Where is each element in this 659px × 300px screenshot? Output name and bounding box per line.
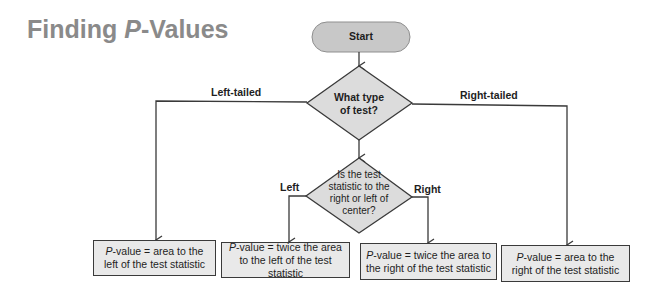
result-text-body: -value = twice the area to the left of t… [236, 241, 342, 279]
edge-label-left-tailed: Left-tailed [211, 86, 261, 98]
decision-center-line2: statistic to the [309, 181, 409, 193]
result-box-two-tailed-left: P-value = twice the area to the left of … [221, 242, 350, 278]
decision-center-line3: right or left of [309, 193, 409, 205]
edge-label-right: Right [414, 183, 441, 195]
start-label: Start [312, 30, 410, 43]
result-text-body: -value = area to the right of the test s… [512, 251, 619, 276]
decision-center-line4: center? [309, 205, 409, 217]
decision-test-type-label: What type of test? [319, 91, 399, 117]
connector-left-tailed [156, 101, 307, 240]
result-text: P-value = area to the left of the test s… [98, 245, 211, 271]
result-box-right-tailed: P-value = area to the right of the test … [501, 245, 630, 282]
decision-center-line1: Is the test [309, 169, 409, 181]
italic-p: P [229, 241, 236, 253]
result-text-body: -value = twice the area to the right of … [366, 249, 491, 274]
result-text: P-value = area to the right of the test … [506, 251, 625, 277]
italic-p: P [517, 251, 524, 263]
decision-test-type-line2: of test? [319, 104, 399, 117]
connector-right-tailed [412, 104, 567, 245]
result-box-left-tailed: P-value = area to the left of the test s… [93, 240, 216, 276]
result-text: P-value = twice the area to the left of … [226, 241, 345, 280]
connector-right [412, 197, 428, 243]
edge-label-left: Left [280, 181, 299, 193]
decision-test-type-line1: What type [319, 91, 399, 104]
result-text: P-value = twice the area to the right of… [365, 249, 492, 275]
decision-center-label: Is the test statistic to the right or le… [309, 169, 409, 217]
result-box-two-tailed-right: P-value = twice the area to the right of… [360, 243, 497, 280]
italic-p: P [106, 245, 113, 257]
result-text-body: -value = area to the left of the test st… [104, 245, 205, 270]
edge-label-right-tailed: Right-tailed [460, 89, 518, 101]
connector-left [289, 196, 306, 242]
